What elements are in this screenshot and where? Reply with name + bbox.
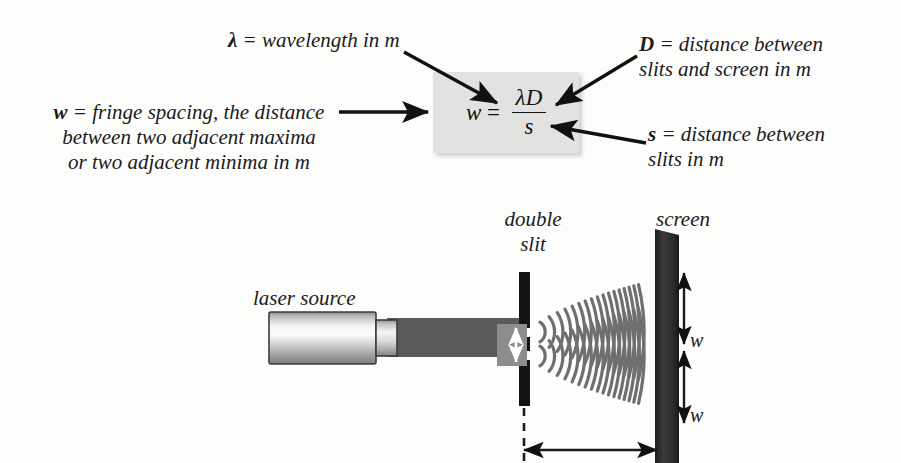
s-pointer-arrow [551,126,646,143]
slit-separation-callout-plate [497,324,527,366]
interference-wavefronts [540,285,644,404]
lambda-pointer-arrow [404,52,497,103]
diagram-canvas: w = λD s λ = wavelength in m w = fringe … [0,0,901,463]
barrier-segment-bottom [519,360,530,406]
diagram-artwork [0,0,901,463]
laser-body [269,312,376,364]
d-pointer-arrow [556,56,637,105]
barrier-segment-top [519,272,530,328]
screen-slab [655,229,679,463]
laser-nozzle [376,320,397,356]
